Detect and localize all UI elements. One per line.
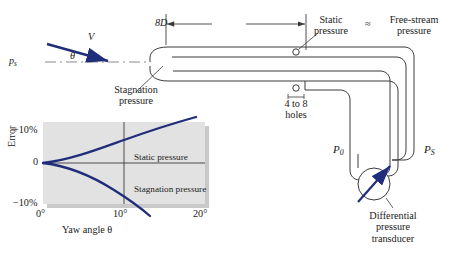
- chart-xlabel: Yaw angle θ: [62, 224, 112, 235]
- freestream-static-pressure-symbol: ps: [9, 55, 17, 68]
- chart-annotation-static: Static pressure: [134, 152, 188, 162]
- tube-runs: [350, 100, 414, 180]
- static-pressure-label: Static pressure: [300, 14, 362, 37]
- chart-ytick-bottom: −10%: [13, 197, 37, 208]
- velocity-label: V: [88, 31, 94, 42]
- approx-equal-symbol: ≈: [365, 18, 371, 29]
- figure-canvas: 8D V θ ps Stagnation pressure Static pre…: [0, 0, 459, 256]
- chart-xtick-10: 10°: [113, 208, 127, 219]
- transducer: [358, 166, 390, 202]
- chart-panel: [43, 117, 209, 216]
- transducer-leader: [386, 198, 393, 208]
- dimension-label-8d: 8D: [155, 17, 167, 28]
- stagnation-pressure-label: Stagnation pressure: [86, 84, 186, 107]
- chart-annotation-stagnation: Stagnation pressure: [134, 184, 206, 194]
- stagnation-port-label: P0: [333, 143, 344, 158]
- holes-marker: [288, 85, 304, 99]
- chart-xtick-0: 0°: [36, 208, 45, 219]
- dimension-8d: [166, 14, 306, 50]
- holes-label: 4 to 8 holes: [266, 98, 326, 121]
- velocity-vector: [45, 44, 150, 62]
- chart-ytick-top: +10%: [13, 124, 37, 135]
- static-port-label: PS: [424, 143, 435, 158]
- transducer-label: Differential pressure transducer: [344, 210, 442, 244]
- yaw-angle-label: θ: [70, 50, 75, 61]
- freestream-pressure-label: Free-stream pressure: [372, 14, 456, 37]
- chart-xtick-20: 20°: [193, 208, 207, 219]
- chart-ytick-mid: 0: [33, 156, 38, 167]
